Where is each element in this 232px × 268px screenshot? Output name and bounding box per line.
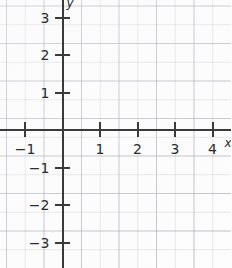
x-tick-mark — [174, 122, 176, 137]
x-tick-mark — [212, 122, 214, 137]
y-tick-label: −3 — [29, 236, 50, 250]
y-tick-label: −1 — [29, 161, 50, 175]
y-tick-mark — [55, 242, 70, 244]
y-tick-label: 2 — [41, 48, 50, 62]
x-tick-label: 4 — [208, 142, 217, 156]
x-tick-label: −1 — [15, 142, 36, 156]
y-tick-mark — [55, 54, 70, 56]
graph-paper-canvas: −11234 321−1−2−3 x y — [0, 0, 231, 268]
y-tick-mark — [55, 167, 70, 169]
y-tick-mark — [55, 17, 70, 19]
y-tick-label: 1 — [41, 86, 50, 100]
x-tick-mark — [137, 122, 139, 137]
x-tick-label: 2 — [133, 142, 142, 156]
y-tick-mark — [55, 204, 70, 206]
y-tick-label: −2 — [29, 198, 50, 212]
y-tick-label: 3 — [41, 11, 50, 25]
y-tick-mark — [55, 92, 70, 94]
x-tick-label: 3 — [171, 142, 180, 156]
x-tick-mark — [99, 122, 101, 137]
y-axis-label: y — [67, 0, 74, 9]
x-axis-line — [0, 129, 231, 131]
x-tick-mark — [24, 122, 26, 137]
y-axis-line — [62, 0, 64, 268]
grid-major-lines — [0, 0, 231, 268]
x-tick-label: 1 — [96, 142, 105, 156]
x-axis-label: x — [225, 137, 232, 149]
